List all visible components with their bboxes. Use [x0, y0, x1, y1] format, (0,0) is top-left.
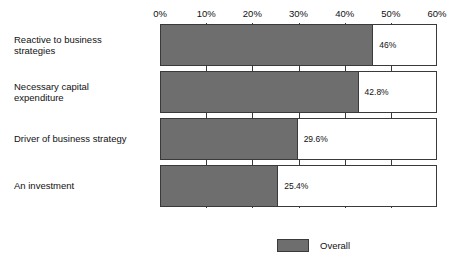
category-label: Necessary capitalexpenditure [14, 81, 156, 104]
category-label-line: expenditure [14, 92, 156, 104]
category-label: Reactive to businessstrategies [14, 34, 156, 57]
bar-segment-overall [161, 166, 278, 206]
bar-segment-overall [161, 119, 298, 159]
category-label-line: Necessary capital [14, 81, 156, 93]
legend-swatch-overall [277, 239, 309, 252]
category-label-line: Reactive to business [14, 34, 156, 46]
category-label: An investment [14, 180, 156, 192]
bar-segment-overall [161, 72, 359, 112]
bar-row: 29.6% [160, 118, 437, 160]
bar-row: 25.4% [160, 165, 437, 207]
category-label-line: Driver of business strategy [14, 133, 156, 145]
x-axis-tick-label: 60% [427, 8, 446, 20]
bar-row: 46% [160, 24, 437, 66]
horizontal-bar-chart: 0%10%20%30%40%50%60% 46%42.8%29.6%25.4% … [0, 0, 458, 268]
x-axis-tick-label: 40% [335, 8, 354, 20]
legend-label-overall: Overall [320, 240, 350, 252]
bar-row: 42.8% [160, 71, 437, 113]
x-axis-tick-label: 50% [381, 8, 400, 20]
legend: Overall [277, 239, 350, 252]
bar-segment-overall [161, 25, 373, 65]
x-axis-tick-label: 0% [153, 8, 167, 20]
plot-area: 46%42.8%29.6%25.4% [160, 23, 437, 208]
x-axis-tick-label: 10% [197, 8, 216, 20]
category-label-line: strategies [14, 45, 156, 57]
x-axis: 0%10%20%30%40%50%60% [160, 8, 437, 22]
category-label-line: An investment [14, 180, 156, 192]
category-label: Driver of business strategy [14, 133, 156, 145]
x-axis-tick-label: 20% [243, 8, 262, 20]
bar-value-label: 46% [379, 40, 396, 50]
x-axis-tick-label: 30% [289, 8, 308, 20]
bar-value-label: 29.6% [304, 134, 328, 144]
bar-value-label: 42.8% [365, 87, 389, 97]
bar-value-label: 25.4% [284, 181, 308, 191]
